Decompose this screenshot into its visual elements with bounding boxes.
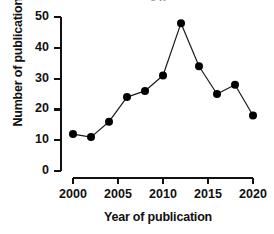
series-line (73, 23, 253, 137)
data-point: 2014: 34 (195, 62, 203, 70)
data-point: 2018: 28 (231, 81, 239, 89)
data-point: 2012: 48 (177, 19, 185, 27)
y-tick-label: 40 (23, 40, 49, 54)
data-series: 2000: 122002: 112004: 162006: 242008: 26… (69, 19, 257, 141)
x-tick-label: 2020 (233, 187, 273, 201)
data-point: 2004: 16 (105, 118, 113, 126)
data-point: 2000: 12 (69, 130, 77, 138)
data-point: 2016: 25 (213, 90, 221, 98)
x-tick-label: 2015 (188, 187, 228, 201)
data-point: 2002: 11 (87, 133, 95, 141)
y-tick-label: 30 (23, 71, 49, 85)
data-point: 2008: 26 (141, 87, 149, 95)
y-tick-label: 20 (23, 101, 49, 115)
data-point: 2006: 24 (123, 93, 131, 101)
x-tick-label: 2005 (98, 187, 138, 201)
publications-line-chart: y g Number of publications Year of publi… (0, 0, 274, 234)
y-tick-label: 10 (23, 132, 49, 146)
y-tick-label: 50 (23, 9, 49, 23)
axes (54, 17, 253, 184)
x-tick-label: 2010 (143, 187, 183, 201)
data-point: 2010: 31 (159, 72, 167, 80)
data-point: 2020: 18 (249, 112, 257, 120)
y-tick-label: 0 (23, 163, 49, 177)
x-tick-label: 2000 (53, 187, 93, 201)
